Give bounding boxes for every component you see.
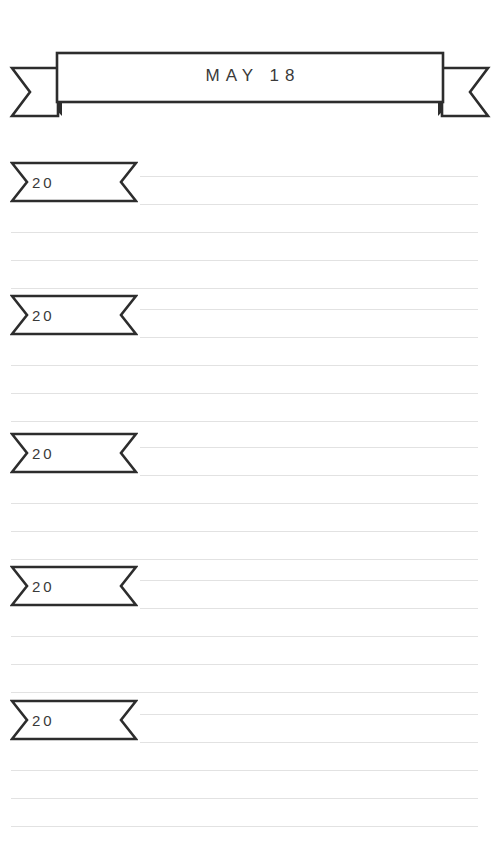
writing-line[interactable] — [140, 742, 478, 743]
writing-line[interactable] — [140, 608, 478, 609]
year-entry-section: 20 — [0, 698, 500, 836]
writing-line[interactable] — [140, 204, 478, 205]
year-entry-section: 20 — [0, 293, 500, 431]
banner-ribbon-icon — [0, 50, 500, 122]
writing-line[interactable] — [140, 337, 478, 338]
year-entry-section: 20 — [0, 160, 500, 298]
writing-line[interactable] — [11, 559, 478, 560]
writing-line[interactable] — [11, 826, 478, 827]
notebook-page: MAY 18 2020202020 — [0, 0, 500, 855]
writing-line[interactable] — [11, 531, 478, 532]
writing-line[interactable] — [140, 447, 478, 448]
writing-line[interactable] — [11, 232, 478, 233]
writing-line[interactable] — [11, 770, 478, 771]
writing-line[interactable] — [11, 503, 478, 504]
writing-line[interactable] — [140, 580, 478, 581]
year-ribbon-icon — [10, 160, 138, 204]
year-ribbon-icon — [10, 698, 138, 742]
writing-line[interactable] — [11, 692, 478, 693]
year-ribbon-icon — [10, 431, 138, 475]
writing-line[interactable] — [140, 475, 478, 476]
writing-line[interactable] — [11, 288, 478, 289]
writing-line[interactable] — [140, 176, 478, 177]
writing-line[interactable] — [140, 309, 478, 310]
writing-line[interactable] — [11, 260, 478, 261]
writing-line[interactable] — [11, 421, 478, 422]
writing-line[interactable] — [11, 798, 478, 799]
year-entry-section: 20 — [0, 431, 500, 569]
writing-line[interactable] — [11, 636, 478, 637]
year-ribbon-icon — [10, 293, 138, 337]
writing-line[interactable] — [11, 393, 478, 394]
year-entry-section: 20 — [0, 564, 500, 702]
year-ribbon-icon — [10, 564, 138, 608]
writing-line[interactable] — [11, 365, 478, 366]
writing-line[interactable] — [11, 664, 478, 665]
writing-line[interactable] — [140, 714, 478, 715]
